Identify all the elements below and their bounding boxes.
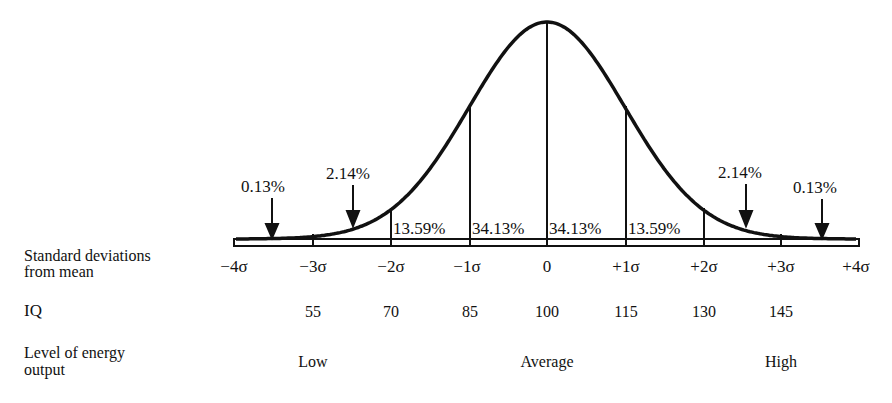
sd-row-label-line1: Standard deviations (24, 248, 151, 264)
arrow-right-tail (816, 199, 828, 238)
iq-value-85: 85 (462, 303, 478, 320)
pct-left-mid: 2.14% (326, 165, 370, 182)
arrow-right-mid (740, 184, 752, 226)
iq-row-label: IQ (24, 303, 42, 319)
pct-inner-3: 34.13% (549, 220, 601, 237)
sd-row-label-line2: from mean (24, 264, 151, 280)
energy-row-label-line2: output (24, 361, 125, 378)
energy-low: Low (298, 353, 327, 370)
energy-row-label-line1: Level of energy (24, 344, 125, 361)
energy-row-label: Level of energy output (24, 344, 125, 378)
iq-value-130: 130 (692, 303, 716, 320)
sigma-tick-minus3: −3σ (299, 258, 326, 275)
pct-right-tail: 0.13% (793, 179, 837, 196)
bell-curve-chart (0, 0, 892, 403)
sd-row-label: Standard deviations from mean (24, 248, 151, 280)
iq-value-115: 115 (614, 303, 637, 320)
sigma-tick-minus4: −4σ (220, 258, 247, 275)
pct-left-tail: 0.13% (241, 178, 285, 195)
sigma-tick-plus1: +1σ (612, 258, 639, 275)
iq-value-145: 145 (769, 303, 793, 320)
arrow-left-mid (347, 185, 359, 226)
iq-value-100: 100 (535, 303, 559, 320)
pct-inner-1: 13.59% (393, 220, 445, 237)
sigma-tick-plus3: +3σ (767, 258, 794, 275)
pct-right-mid: 2.14% (718, 164, 762, 181)
sigma-tick-plus4: +4σ (842, 258, 869, 275)
sigma-tick-minus1: −1σ (453, 258, 480, 275)
iq-value-70: 70 (383, 303, 399, 320)
energy-average: Average (521, 353, 574, 370)
sigma-tick-zero: 0 (543, 258, 552, 275)
sigma-tick-minus2: −2σ (377, 258, 404, 275)
pct-inner-2: 34.13% (472, 220, 524, 237)
energy-high: High (765, 353, 797, 370)
sigma-tick-plus2: +2σ (690, 258, 717, 275)
pct-inner-4: 13.59% (628, 220, 680, 237)
sigma-dividers (313, 22, 781, 246)
arrow-left-tail (266, 198, 278, 238)
iq-value-55: 55 (305, 303, 321, 320)
